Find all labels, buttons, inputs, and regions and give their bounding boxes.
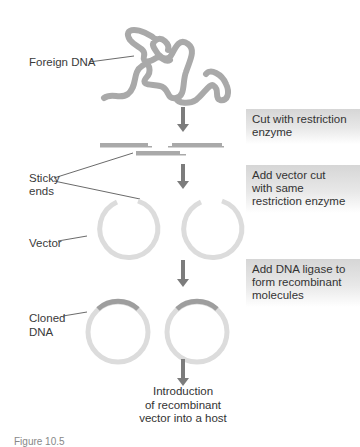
step-box-ligase: Add DNA ligase to form recombinant molec… <box>246 259 360 307</box>
label-foreign-dna: Foreign DNA <box>29 56 95 69</box>
step-text: form recombinant <box>252 276 354 289</box>
recombinant-rings <box>88 301 227 362</box>
step-text: Cut with restriction <box>252 113 354 126</box>
step-text: restriction enzyme <box>252 195 354 208</box>
step-text: Add DNA ligase to <box>252 263 354 276</box>
step-box-add-vector: Add vector cut with same restriction enz… <box>246 165 360 213</box>
label-sticky-ends-1: Sticky <box>29 172 60 185</box>
label-sticky-ends-2: ends <box>29 185 54 198</box>
leader-sticky-ends-1 <box>54 153 133 178</box>
foreign-dna-strand <box>104 30 228 103</box>
step-text: Add vector cut <box>252 169 354 182</box>
step-text: enzyme <box>252 126 354 139</box>
label-cloned-dna-2: DNA <box>29 326 53 339</box>
leader-cloned-dna <box>63 312 87 316</box>
result-text: Introduction of recombinant vector into … <box>100 385 266 426</box>
step-text: with same <box>252 182 354 195</box>
figure-caption-fragment: Figure 10.5 <box>14 436 65 447</box>
result-line: Introduction <box>100 385 266 399</box>
leader-sticky-ends-2 <box>54 181 140 199</box>
label-cloned-dna-1: Cloned <box>29 312 65 325</box>
arrow-down-icon <box>181 107 185 125</box>
result-line: of recombinant <box>100 399 266 413</box>
label-vector: Vector <box>29 237 62 250</box>
arrow-down-icon <box>181 260 185 280</box>
arrow-down-icon <box>181 359 185 379</box>
step-box-cut: Cut with restriction enzyme <box>246 109 360 144</box>
step-text: molecules <box>252 289 354 302</box>
leader-vector <box>58 236 87 241</box>
arrow-down-icon <box>181 164 185 182</box>
leader-foreign-dna <box>89 56 134 62</box>
result-line: vector into a host <box>100 412 266 426</box>
vector-rings <box>100 201 242 257</box>
cut-fragments <box>100 143 224 156</box>
